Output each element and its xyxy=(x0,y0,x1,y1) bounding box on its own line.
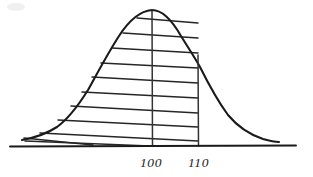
normal-curve-drawing: 100 110 xyxy=(0,0,313,177)
tick-label-mean: 100 xyxy=(140,155,162,170)
cutoff-vertical-line xyxy=(198,55,199,146)
x-axis-baseline xyxy=(10,146,296,147)
bell-curve-path xyxy=(22,10,279,142)
normal-curve-figure: 100 110 xyxy=(0,0,313,177)
page-smudge xyxy=(7,3,25,11)
tick-label-cutoff: 110 xyxy=(188,155,209,170)
mean-vertical-line xyxy=(152,11,153,146)
shaded-region-hatching xyxy=(24,18,198,146)
